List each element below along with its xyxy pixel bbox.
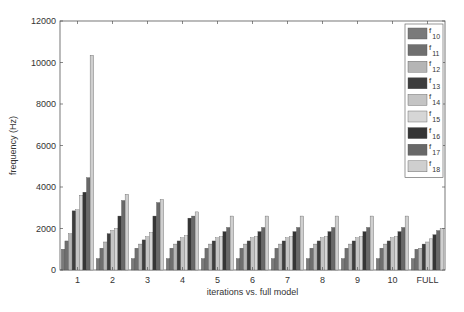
y-tick-label: 8000	[36, 99, 56, 109]
bar-f15	[289, 237, 293, 270]
bar-f11	[380, 248, 384, 270]
bar-f10	[306, 259, 310, 270]
bar-group-10	[376, 216, 408, 270]
bar-f13	[142, 240, 146, 270]
bar-f16	[258, 232, 262, 270]
bar-f10	[236, 259, 240, 270]
bar-f11	[65, 241, 69, 270]
bar-f13	[282, 241, 286, 270]
bar-f12	[139, 244, 143, 270]
bar-f16	[118, 216, 122, 270]
bar-f11	[205, 248, 209, 270]
legend-swatch	[408, 45, 427, 56]
bar-f12	[419, 248, 423, 270]
bar-f13	[107, 234, 111, 270]
bar-f18	[125, 194, 129, 270]
bar-f16	[188, 218, 192, 270]
y-tick-label: 4000	[36, 182, 56, 192]
bar-f12	[174, 244, 178, 270]
bar-f18	[300, 216, 304, 270]
x-tick-label: 1	[75, 275, 80, 285]
bar-f13	[212, 241, 216, 270]
bar-group-7	[271, 216, 303, 270]
bar-f18	[405, 216, 409, 270]
bar-f16	[83, 192, 87, 270]
bar-f15	[114, 229, 118, 271]
legend-swatch	[408, 78, 427, 89]
bar-f10	[341, 259, 345, 270]
bar-f16	[153, 216, 157, 270]
bar-group-6	[236, 216, 268, 270]
bar-f12	[244, 244, 248, 270]
bar-f12	[209, 244, 213, 270]
bar-f17	[297, 227, 301, 270]
bar-f13	[317, 241, 321, 270]
bar-f15	[429, 239, 433, 270]
bar-f10	[201, 259, 205, 270]
bar-f11	[100, 248, 104, 270]
bar-f11	[275, 248, 279, 270]
bar-f16	[293, 232, 297, 270]
bar-f12	[104, 242, 108, 270]
bar-f14	[251, 238, 255, 270]
bar-f11	[310, 248, 314, 270]
bar-f16	[363, 232, 367, 270]
bar-group-4	[166, 212, 198, 270]
bar-f15	[254, 237, 258, 270]
bar-f14	[321, 238, 325, 270]
bar-f18	[230, 216, 234, 270]
bar-f15	[324, 237, 328, 270]
bar-f17	[262, 227, 266, 270]
bar-f13	[72, 211, 76, 270]
legend-swatch	[408, 28, 427, 39]
bar-f18	[335, 216, 339, 270]
bar-f10	[271, 259, 275, 270]
bar-f17	[192, 216, 196, 270]
bar-f14	[181, 238, 185, 270]
legend: f10f11f12f13f14f15f16f17f18	[405, 24, 443, 177]
bar-f17	[227, 227, 231, 270]
bar-f17	[367, 227, 371, 270]
legend-swatch	[408, 161, 427, 172]
x-tick-label: 5	[215, 275, 220, 285]
bar-f16	[398, 232, 402, 270]
bar-f13	[352, 241, 356, 270]
bar-f16	[223, 232, 227, 270]
bar-f12	[349, 244, 353, 270]
bar-f12	[314, 244, 318, 270]
bar-group-9	[341, 216, 373, 270]
bar-f15	[359, 237, 363, 270]
bar-f17	[437, 231, 441, 270]
bar-f17	[87, 178, 91, 270]
bar-f15	[219, 237, 223, 270]
x-tick-label: FULL	[416, 275, 438, 285]
bar-f15	[149, 233, 153, 270]
bar-group-8	[306, 216, 338, 270]
bar-f10	[61, 249, 65, 270]
bar-f10	[411, 259, 415, 270]
x-tick-label: 7	[285, 275, 290, 285]
y-tick-label: 0	[51, 265, 56, 275]
bar-f14	[286, 238, 290, 270]
bar-f10	[376, 259, 380, 270]
bar-f11	[415, 249, 419, 270]
bar-f12	[279, 244, 283, 270]
bar-f12	[69, 234, 73, 270]
bar-f14	[76, 210, 80, 270]
bar-f11	[345, 248, 349, 270]
bar-f14	[356, 238, 360, 270]
bar-group-2	[96, 194, 128, 270]
bar-f18	[90, 55, 94, 270]
bar-f13	[247, 241, 251, 270]
bar-f10	[131, 259, 135, 270]
bar-f18	[265, 216, 269, 270]
bar-f10	[96, 259, 100, 270]
bar-f15	[394, 237, 398, 270]
bar-f17	[332, 227, 336, 270]
y-axis-label: frequency (Hz)	[8, 116, 18, 175]
bar-f18	[195, 212, 199, 270]
legend-swatch	[408, 61, 427, 72]
bar-f18	[160, 199, 164, 270]
bar-f17	[122, 200, 126, 270]
bar-group-5	[201, 216, 233, 270]
